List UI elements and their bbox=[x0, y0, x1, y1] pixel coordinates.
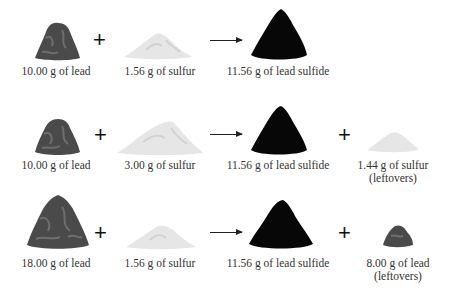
lead-sulfide-pile-icon bbox=[247, 198, 315, 250]
product-label: 11.56 g of lead sulfide bbox=[222, 65, 334, 78]
lead-pile-icon bbox=[32, 116, 82, 156]
leftover-note: (leftovers) bbox=[353, 172, 433, 185]
lead-sulfide-pile-icon bbox=[249, 104, 309, 156]
leftover-label: 8.00 g of lead bbox=[358, 257, 438, 270]
lead-pile-icon bbox=[32, 20, 82, 62]
reactant-label: 1.56 g of sulfur bbox=[120, 257, 200, 270]
reactant-label: 1.56 g of sulfur bbox=[120, 65, 200, 78]
reactant-label: 18.00 g of lead bbox=[18, 257, 94, 270]
sulfur-leftover-pile-icon bbox=[365, 127, 421, 153]
product-label: 11.56 g of lead sulfide bbox=[222, 159, 334, 172]
plus-sign: + bbox=[94, 124, 107, 146]
reaction-arrow bbox=[210, 232, 242, 233]
sulfur-pile-icon bbox=[124, 220, 198, 250]
product-label: 11.56 g of lead sulfide bbox=[222, 257, 334, 270]
lead-sulfide-pile-icon bbox=[249, 7, 309, 62]
reactant-label: 3.00 g of sulfur bbox=[120, 159, 200, 172]
sulfur-pile-icon bbox=[115, 116, 205, 156]
reactant-label: 10.00 g of lead bbox=[18, 65, 94, 78]
reactant-label: 10.00 g of lead bbox=[18, 159, 94, 172]
plus-sign: + bbox=[338, 222, 351, 244]
reaction-arrow bbox=[210, 40, 242, 41]
plus-sign: + bbox=[93, 29, 106, 51]
lead-pile-icon bbox=[24, 193, 92, 250]
plus-sign: + bbox=[94, 222, 107, 244]
leftover-label: 1.44 g of sulfur bbox=[353, 159, 433, 172]
plus-sign: + bbox=[338, 124, 351, 146]
reaction-arrow bbox=[210, 134, 242, 135]
lead-leftover-pile-icon bbox=[381, 222, 415, 248]
leftover-note: (leftovers) bbox=[358, 270, 438, 283]
sulfur-pile-icon bbox=[122, 30, 194, 60]
